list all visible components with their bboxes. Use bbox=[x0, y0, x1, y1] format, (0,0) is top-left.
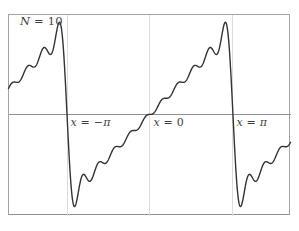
axis-label-pos-pi: x = π bbox=[236, 117, 267, 128]
math-text-part: = bbox=[243, 116, 260, 129]
math-text-part: N bbox=[20, 14, 30, 28]
figure: N = 10 x = −πx = 0x = π bbox=[0, 0, 299, 231]
axis-label-zero: x = 0 bbox=[153, 117, 183, 128]
math-text-part: π bbox=[103, 116, 110, 129]
math-text-part: = bbox=[160, 116, 177, 129]
math-text-part: = bbox=[77, 116, 94, 129]
math-text-part: 0 bbox=[177, 116, 184, 129]
math-text-part: − bbox=[94, 116, 103, 129]
math-text-part: 10 bbox=[48, 14, 63, 28]
n-equals-10-label: N = 10 bbox=[20, 16, 63, 27]
axis-label-neg-pi: x = −π bbox=[71, 117, 111, 128]
math-text-part: = bbox=[30, 14, 48, 28]
math-text-part: π bbox=[260, 116, 267, 129]
